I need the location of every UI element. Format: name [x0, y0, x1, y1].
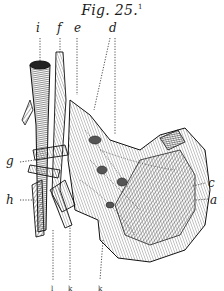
anatomical-engraving: [0, 0, 224, 291]
label-g: g: [6, 155, 14, 167]
label-e: e: [74, 22, 81, 34]
organ-body: [68, 100, 210, 262]
label-h: h: [6, 194, 14, 206]
bottom-label-3: k: [98, 283, 102, 291]
label-f: f: [57, 22, 61, 34]
label-i: i: [36, 22, 40, 34]
bottom-label-1: l: [51, 283, 53, 291]
label-d: d: [109, 22, 117, 34]
label-c: c: [208, 177, 215, 189]
label-a: a: [210, 194, 217, 206]
bottom-label-2: k: [68, 283, 72, 291]
